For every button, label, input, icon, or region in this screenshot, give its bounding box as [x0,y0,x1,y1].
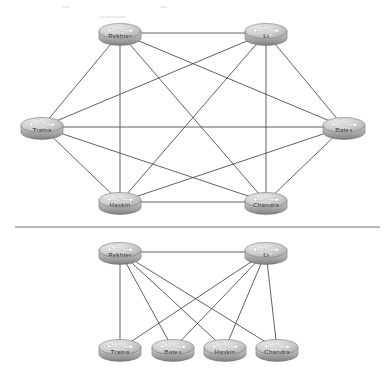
peering-link-rekhter2-bates2 [120,252,173,349]
router-label-rekhter2: Rekhter [108,251,132,258]
router-label-bates2: Bates [164,348,182,355]
peering-link-li2-bates2 [173,252,266,349]
router-node-traina[interactable]: Traina [21,117,63,139]
router-node-bates2[interactable]: Bates [152,339,194,361]
peering-link-rekhter2-haskin2 [120,252,225,349]
full-mesh-topology-routers: RekhterLiTrainaBatesHaskinChandra [21,23,365,214]
routers-layer: RekhterLiTrainaBatesHaskinChandraRekhter… [21,23,365,361]
route-reflector-topology-routers: RekhterLiTrainaBatesHaskinChandra [99,242,298,361]
router-node-rekhter2[interactable]: Rekhter [99,242,141,264]
router-node-bates[interactable]: Bates [323,117,365,139]
router-label-rekhter: Rekhter [108,32,132,39]
router-label-traina2: Traina [111,348,130,355]
scan-artifacts [62,6,167,18]
router-label-bates: Bates [335,126,353,133]
router-label-traina: Traina [33,126,52,133]
peering-link-li2-traina2 [120,252,266,349]
peering-link-li-bates [266,33,344,127]
router-label-chandra2: Chandra [264,348,290,355]
full-mesh-topology-links [42,33,344,202]
peering-link-rekhter2-chandra2 [120,252,277,349]
router-label-li: Li [263,32,269,39]
router-node-haskin[interactable]: Haskin [99,192,141,214]
peering-links-layer [42,33,344,349]
router-node-traina2[interactable]: Traina [99,339,141,361]
router-label-li2: Li [263,251,269,258]
router-node-li[interactable]: Li [245,23,287,45]
router-label-haskin2: Haskin [215,348,236,355]
router-node-rekhter[interactable]: Rekhter [99,23,141,45]
router-label-chandra: Chandra [253,201,279,208]
router-node-chandra2[interactable]: Chandra [256,339,298,361]
router-node-li2[interactable]: Li [245,242,287,264]
peering-link-li2-haskin2 [225,252,266,349]
network-topology-canvas: RekhterLiTrainaBatesHaskinChandraRekhter… [0,0,387,378]
network-diagram-figure: RekhterLiTrainaBatesHaskinChandraRekhter… [0,0,387,378]
peering-link-rekhter-traina [42,33,120,127]
router-node-haskin2[interactable]: Haskin [204,339,246,361]
router-label-haskin: Haskin [110,201,131,208]
route-reflector-topology-links [120,252,277,349]
peering-link-li2-chandra2 [266,252,277,349]
router-node-chandra[interactable]: Chandra [245,192,287,214]
